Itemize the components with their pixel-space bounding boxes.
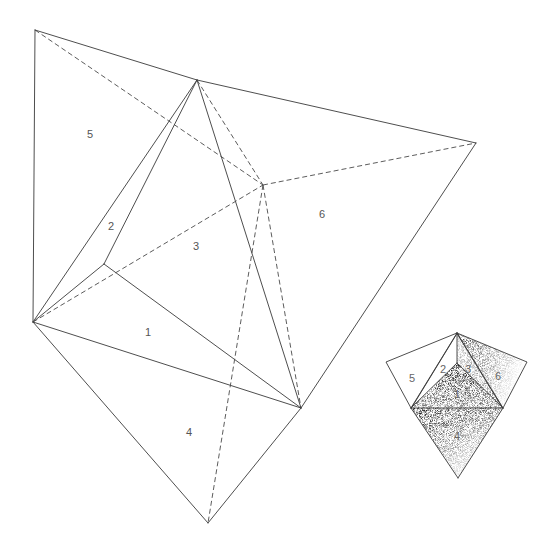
edge-F-G bbox=[33, 322, 301, 408]
dashed-D-C bbox=[263, 143, 476, 185]
dashed-B-D bbox=[197, 80, 263, 185]
dashed-A-D bbox=[35, 30, 263, 185]
edge-F-B bbox=[33, 80, 197, 322]
edge-E-G bbox=[104, 264, 301, 408]
net-solid-edges bbox=[33, 30, 476, 523]
net-label-5: 5 bbox=[87, 128, 93, 140]
assembled-label-1: 1 bbox=[454, 388, 460, 400]
dashed-D-G bbox=[263, 185, 301, 408]
net-label-4: 4 bbox=[186, 426, 192, 438]
edge-G-H bbox=[208, 408, 301, 523]
assembled-label-2: 2 bbox=[440, 363, 446, 375]
net-label-2: 2 bbox=[108, 220, 114, 232]
net-label-6: 6 bbox=[319, 208, 325, 220]
edge-E-B bbox=[104, 80, 197, 264]
assembled-label-5: 5 bbox=[409, 372, 415, 384]
assembled-label-6: 6 bbox=[495, 370, 501, 382]
net-label-1: 1 bbox=[145, 326, 151, 338]
diagram-canvas: 5 2 3 6 1 4 bbox=[0, 0, 558, 558]
assembled-label-4: 4 bbox=[454, 430, 460, 442]
shade-face-4 bbox=[411, 408, 503, 478]
edge-C-G bbox=[301, 143, 476, 408]
edge-F-E bbox=[33, 264, 104, 322]
edge-B-G bbox=[197, 80, 301, 408]
edge-F-H bbox=[33, 322, 208, 523]
dashed-F-D bbox=[33, 185, 263, 322]
net-face-labels: 5 2 3 6 1 4 bbox=[87, 128, 325, 438]
net-label-3: 3 bbox=[193, 240, 199, 252]
edge-A-F bbox=[33, 30, 35, 322]
assembled-figure: 5 2 3 6 1 4 bbox=[386, 333, 527, 478]
assembled-label-3: 3 bbox=[465, 363, 471, 375]
edge-A-B bbox=[35, 30, 197, 80]
net-figure: 5 2 3 6 1 4 bbox=[33, 30, 476, 523]
dashed-D-H bbox=[208, 185, 263, 523]
net-dashed-edges bbox=[33, 30, 476, 523]
edge-B-C bbox=[197, 80, 476, 143]
